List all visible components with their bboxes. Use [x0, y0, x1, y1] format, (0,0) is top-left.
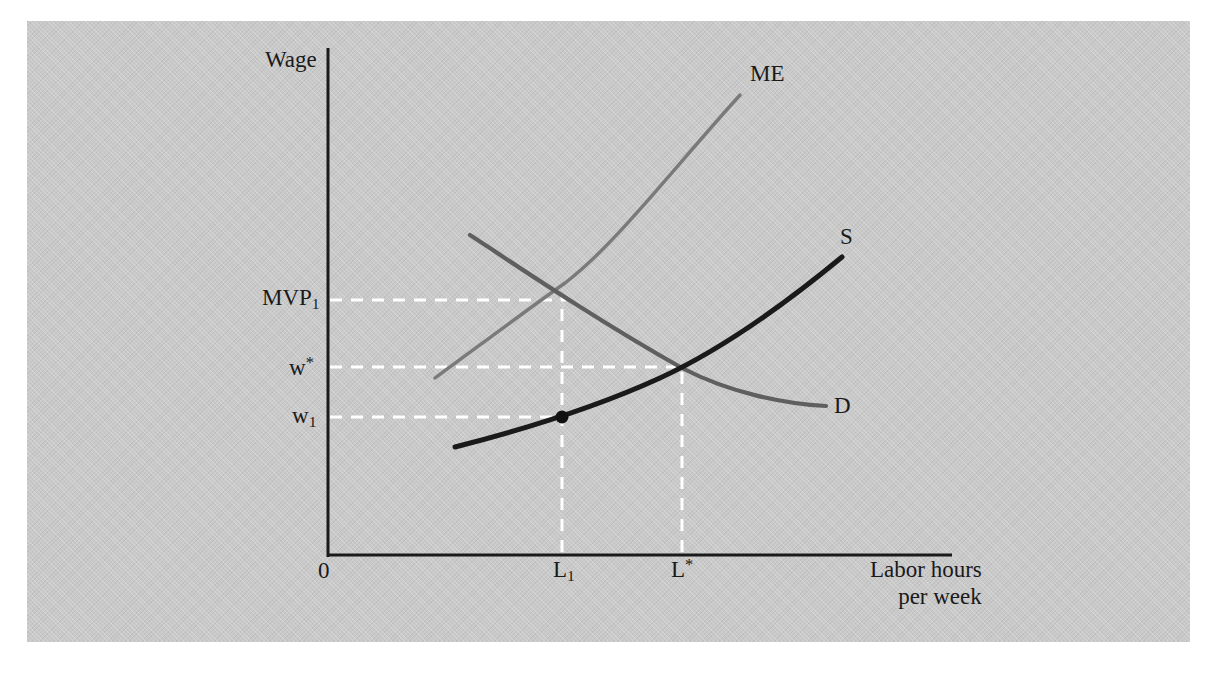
- curve-label-s: S: [840, 225, 853, 248]
- y-axis-title: Wage: [265, 48, 317, 71]
- y-tick-wstar-sup: *: [306, 353, 314, 372]
- curve-me: [435, 95, 740, 378]
- x-axis-title-line2: per week: [870, 585, 982, 608]
- x-tick-label-l1: L1: [553, 558, 575, 584]
- x-tick-lstar-sup: *: [685, 555, 693, 574]
- origin-label: 0: [318, 559, 330, 582]
- y-tick-w1-sub: 1: [309, 413, 317, 430]
- x-axis-title-line1: Labor hours: [870, 557, 982, 582]
- curve-label-me: ME: [750, 62, 785, 85]
- y-tick-w1-base: w: [292, 403, 309, 428]
- y-tick-label-mvp1: MVP1: [262, 286, 320, 312]
- chart-canvas: [0, 0, 1215, 677]
- y-tick-label-w1: w1: [292, 404, 316, 430]
- figure-root: Wage ME S D MVP1 w* w1 0 L1 L* Labor hou…: [0, 0, 1215, 677]
- monopsony-wage-point: [556, 411, 569, 424]
- x-tick-lstar-base: L: [671, 557, 685, 582]
- curve-s: [455, 257, 842, 447]
- curve-label-d: D: [834, 394, 851, 417]
- x-tick-label-lstar: L*: [671, 557, 693, 581]
- y-tick-mvp1-base: MVP: [262, 285, 312, 310]
- curve-d: [470, 235, 826, 406]
- y-tick-wstar-base: w: [289, 355, 306, 380]
- x-axis-title: Labor hours per week: [870, 558, 982, 608]
- y-tick-mvp1-sub: 1: [312, 295, 320, 312]
- x-tick-l1-base: L: [553, 557, 567, 582]
- y-tick-label-wstar: w*: [289, 355, 314, 379]
- guide-lines: [330, 297, 686, 552]
- x-tick-l1-sub: 1: [567, 567, 575, 584]
